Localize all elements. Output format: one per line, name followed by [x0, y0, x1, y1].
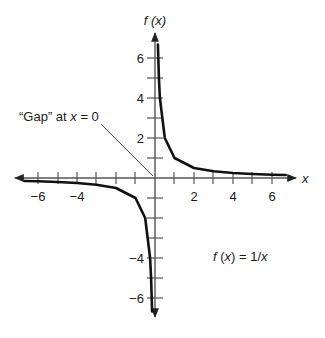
function-label: f (x) = 1/x — [213, 249, 268, 264]
hyperbola-chart: f (x) x −6 −4 2 4 6 6 4 2 −4 −6 “Gap” at… — [0, 0, 325, 338]
curve-positive-branch — [158, 45, 286, 175]
gap-leader-line — [101, 124, 153, 176]
x-tick-label: 6 — [268, 189, 275, 204]
y-tick-label: 4 — [137, 91, 144, 106]
x-axis-label: x — [301, 171, 309, 186]
x-tick-label: −4 — [70, 189, 85, 204]
y-axis-label: f (x) — [144, 13, 166, 28]
y-tick-label: −6 — [129, 291, 144, 306]
x-tick-label: 2 — [190, 189, 197, 204]
y-tick-label: 6 — [137, 51, 144, 66]
y-tick-label: 2 — [137, 131, 144, 146]
y-tick-label: −4 — [129, 251, 144, 266]
x-tick-label: −6 — [31, 189, 46, 204]
gap-annotation: “Gap” at x = 0 — [19, 109, 99, 124]
x-tick-label: 4 — [229, 189, 236, 204]
